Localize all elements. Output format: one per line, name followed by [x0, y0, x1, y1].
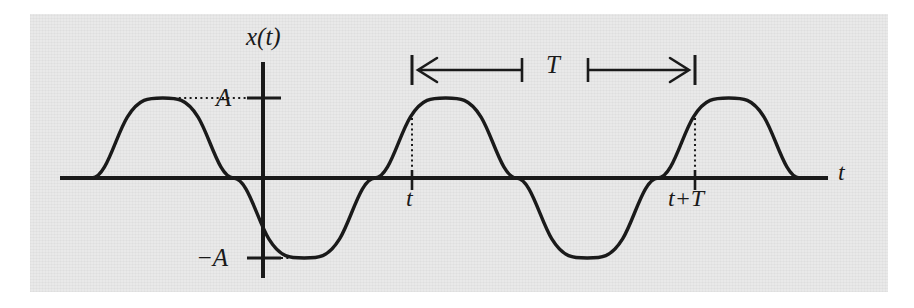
amplitude-negative-label: −A	[196, 245, 228, 270]
waveform-plot	[0, 0, 914, 308]
amplitude-positive-label: A	[216, 85, 231, 110]
period-label: T	[546, 52, 560, 77]
time-marker-plus-period-label: t+T	[668, 186, 704, 210]
y-axis-label: x(t)	[246, 24, 281, 49]
x-axis-label: t	[838, 160, 845, 184]
figure-root: x(t) A −A T t t+T t	[0, 0, 914, 308]
time-marker-label: t	[406, 186, 413, 210]
